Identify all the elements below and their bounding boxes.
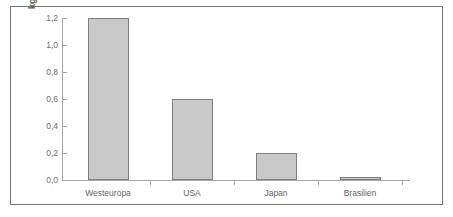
chart-frame — [10, 6, 443, 205]
